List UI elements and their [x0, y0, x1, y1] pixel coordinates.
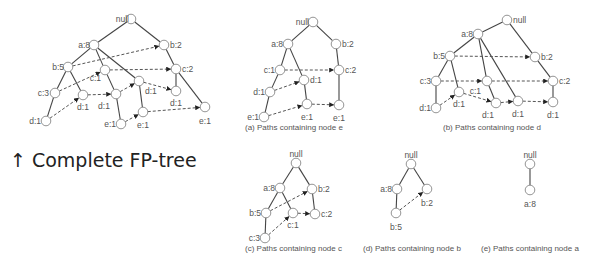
- tree-e: nulla:8(e) Paths containing node a: [481, 150, 579, 253]
- tree-c: nulla:8b:2b:5c:1c:2c:3(c) Paths containi…: [245, 149, 342, 253]
- node-label: null: [289, 149, 302, 159]
- tree-node-d1c: [491, 98, 501, 108]
- node-label: b:5: [249, 208, 261, 218]
- node-label: b:5: [390, 222, 402, 232]
- node-label: d:1: [170, 98, 182, 108]
- tree-node-c1: [100, 65, 110, 75]
- tree-node-d1a: [299, 75, 309, 85]
- node-label: e:1: [301, 112, 313, 122]
- tree-edge: [283, 167, 294, 184]
- tree-edge: [70, 71, 80, 91]
- tree-edge: [140, 86, 143, 107]
- node-label: null: [116, 14, 129, 24]
- node-label: a:8: [524, 199, 536, 209]
- tree-node-c3: [50, 88, 60, 98]
- tree-node-c2: [334, 65, 344, 75]
- node-label: d:1: [547, 110, 559, 120]
- node-label: b:2: [541, 52, 553, 62]
- node-label: c:1: [470, 86, 482, 96]
- tree-node-e1b: [302, 99, 312, 109]
- node-link-arrow: [270, 191, 307, 210]
- tree-node-d1e: [548, 97, 558, 107]
- tree-edge: [290, 48, 302, 75]
- node-label: d:1: [77, 102, 89, 112]
- node-link-arrow: [501, 101, 513, 102]
- node-label: d:1: [482, 110, 494, 120]
- node-link-arrow: [298, 213, 310, 214]
- tree-edge: [396, 194, 397, 208]
- tree-complete: nulla:8b:2b:5c:1c:2c:3d:1d:1d:1d:1d:1e:1…: [29, 14, 211, 130]
- tree-node-e1b: [138, 107, 148, 117]
- node-link-arrow: [269, 217, 289, 235]
- tree-edge: [510, 24, 532, 53]
- node-link-arrow: [120, 84, 134, 92]
- tree-edge: [47, 98, 53, 117]
- tree-node-d1a: [431, 103, 441, 113]
- tree-node-c1: [275, 65, 285, 75]
- subfigure-caption: (b) Paths containing node d: [443, 123, 541, 132]
- tree-edge: [57, 71, 66, 88]
- node-label: null: [296, 17, 309, 27]
- tree-node-b2: [307, 184, 317, 194]
- node-label: c:3: [38, 88, 50, 98]
- node-label: b:5: [52, 62, 64, 72]
- node-link-arrow: [275, 82, 299, 91]
- tree-node-c3: [260, 233, 270, 243]
- node-link-arrow: [148, 107, 200, 111]
- tree-node-c2: [310, 209, 320, 219]
- node-label: a:8: [263, 183, 275, 193]
- tree-node-d1b: [111, 89, 121, 99]
- tree-edge: [98, 22, 127, 42]
- node-label: c:1: [90, 73, 102, 83]
- tree-node-a8: [525, 185, 535, 195]
- node-label: b:2: [170, 40, 182, 50]
- tree-edge: [414, 168, 425, 185]
- tree-node-null: [406, 159, 416, 169]
- tree-node-b2: [422, 184, 432, 194]
- tree-edge: [480, 38, 515, 97]
- tree-edge: [489, 85, 494, 98]
- tree-node-d1e: [41, 116, 51, 126]
- node-label: e:1: [247, 112, 259, 122]
- tree-node-b5: [445, 51, 455, 61]
- node-link-arrow: [269, 106, 302, 116]
- node-label: null: [523, 150, 536, 160]
- tree-node-c1: [482, 76, 492, 86]
- node-label: b:2: [342, 39, 354, 49]
- node-link-arrow: [523, 101, 548, 102]
- tree-edge: [281, 49, 286, 66]
- tree-node-null: [291, 158, 301, 168]
- node-label: d:1: [253, 87, 265, 97]
- tree-node-null: [308, 17, 318, 27]
- node-label: b:2: [318, 184, 330, 194]
- node-label: d:1: [29, 116, 41, 126]
- tree-edge: [292, 25, 310, 41]
- trees-layer: nulla:8b:2b:5c:1c:2c:3d:1d:1d:1d:1d:1e:1…: [29, 14, 579, 253]
- node-label: b:5: [433, 51, 445, 61]
- tree-node-b2: [530, 52, 540, 62]
- node-label: d:1: [145, 86, 157, 96]
- node-link-arrow: [400, 192, 423, 210]
- tree-node-c2: [548, 76, 558, 86]
- tree-node-a8: [275, 183, 285, 193]
- node-label: null: [404, 150, 417, 160]
- node-label: b:2: [421, 198, 433, 208]
- tree-edge: [166, 49, 174, 64]
- tree-edge: [268, 192, 277, 209]
- tree-edge: [337, 49, 339, 65]
- tree-edge: [399, 168, 408, 185]
- node-link-arrow: [50, 98, 79, 118]
- node-label: null: [513, 15, 526, 25]
- node-label: c:2: [182, 64, 194, 74]
- tree-node-d1b: [454, 87, 464, 97]
- node-label: c:2: [321, 209, 333, 219]
- tree-node-d1d: [513, 96, 523, 106]
- node-label: a:8: [461, 29, 473, 39]
- node-label: e:1: [199, 116, 211, 126]
- tree-edge: [179, 73, 202, 103]
- tree-node-b2: [159, 40, 169, 50]
- tree-node-a8: [473, 29, 483, 39]
- tree-node-e1c: [334, 100, 344, 110]
- node-label: c:1: [264, 65, 276, 75]
- subfigure-caption: (e) Paths containing node a: [481, 244, 579, 253]
